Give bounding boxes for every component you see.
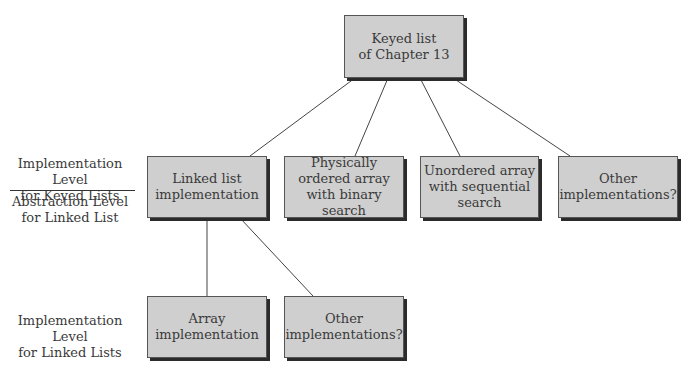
label-implementation-linked: Implementation Level for Linked Lists: [5, 313, 135, 361]
node-linked-list: Linked list implementation: [147, 156, 267, 218]
node-other-implementations-2: Other implementations?: [284, 296, 404, 358]
label-abstraction-linked: Abstraction Level for Linked List: [5, 194, 135, 226]
node-array-implementation: Array implementation: [147, 296, 267, 358]
node-ordered-array: Physically ordered array with binary sea…: [284, 156, 404, 218]
level-divider: [10, 190, 135, 191]
node-keyed-list: Keyed list of Chapter 13: [344, 15, 464, 78]
node-unordered-array: Unordered array with sequential search: [420, 156, 539, 218]
node-other-implementations-1: Other implementations?: [558, 156, 678, 218]
